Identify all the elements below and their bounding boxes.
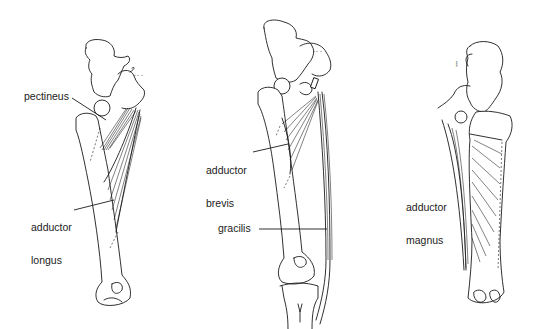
left-thigh-figure: ᐢ ᐢ ᐢ: [76, 39, 145, 305]
adductor-magnus-label-line2: magnus: [406, 235, 447, 246]
middle-thigh-figure: ᐢ ᐢ ᐢ: [258, 20, 332, 329]
adductor-magnus-label: adductor magnus: [406, 180, 447, 268]
gracilis-label: gracilis: [218, 223, 251, 234]
adductor-brevis-label-line1: adductor: [206, 165, 247, 176]
pectineus-label: pectineus: [24, 91, 69, 102]
svg-text:ᐢᐢᐢ: ᐢᐢᐢ: [453, 61, 458, 67]
adductor-longus-label-line1: adductor: [31, 222, 72, 233]
adductor-brevis-label: adductor brevis: [206, 143, 247, 231]
adductor-brevis-label-line2: brevis: [206, 198, 247, 209]
adductor-muscles-diagram: ᐢ ᐢ ᐢ: [0, 0, 535, 329]
svg-text:ᐢ ᐢ ᐢ: ᐢ ᐢ ᐢ: [313, 50, 322, 55]
svg-text:ᐢ ᐢ ᐢ: ᐢ ᐢ ᐢ: [134, 74, 143, 79]
right-thigh-figure: ᐢᐢᐢ: [438, 42, 512, 303]
adductor-longus-label-line2: longus: [31, 255, 72, 266]
adductor-magnus-label-line1: adductor: [406, 202, 447, 213]
adductor-longus-label: adductor longus: [31, 200, 72, 288]
anatomy-drawings: ᐢ ᐢ ᐢ: [0, 0, 535, 329]
